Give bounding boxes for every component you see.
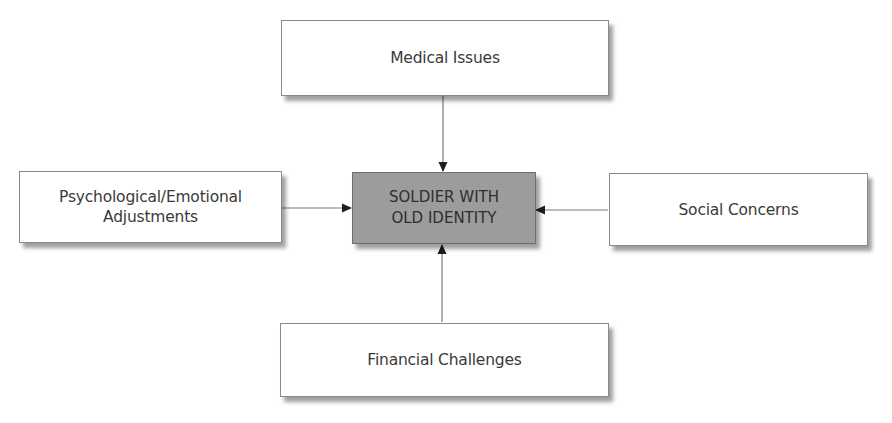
node-psychological-emotional-adjustments: Psychological/Emotional Adjustments (19, 171, 282, 243)
node-medical-issues: Medical Issues (281, 20, 609, 96)
node-label: Financial Challenges (367, 350, 521, 370)
node-financial-challenges: Financial Challenges (280, 323, 609, 397)
node-label: Social Concerns (678, 200, 798, 220)
center-node-label: SOLDIER WITH OLD IDENTITY (389, 187, 499, 229)
node-social-concerns: Social Concerns (609, 173, 868, 246)
node-label: Psychological/Emotional Adjustments (59, 187, 242, 227)
node-label: Medical Issues (390, 48, 500, 68)
node-soldier-with-old-identity: SOLDIER WITH OLD IDENTITY (352, 172, 536, 244)
